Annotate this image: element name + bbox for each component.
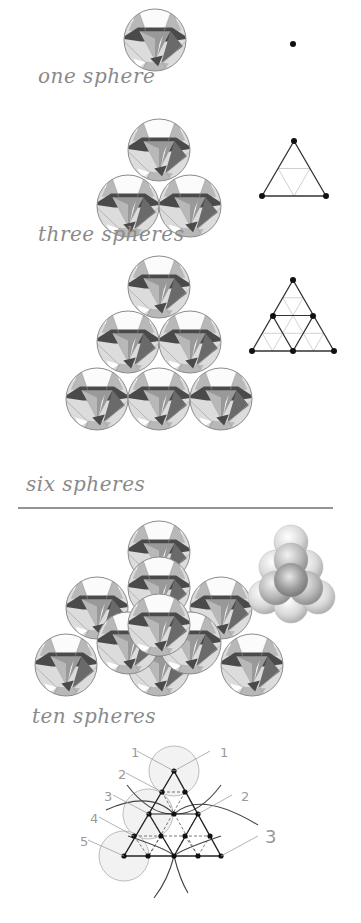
vertex-dot (249, 348, 255, 354)
vertex-dot (323, 193, 329, 199)
caption-six-spheres: six spheres (26, 472, 145, 496)
sphere-packing-figure: 11223453 one sphere three spheres six sp… (0, 0, 361, 923)
triangle-one (290, 41, 296, 47)
ball-pyramid (248, 525, 335, 623)
vertex-dot (207, 833, 212, 838)
vertex-dot (290, 41, 296, 47)
vertex-dot (291, 138, 297, 144)
triangle-three (259, 138, 329, 199)
step-number-label: 2 (118, 767, 126, 782)
step-number-label: 5 (80, 834, 88, 849)
caption-one-sphere: one sphere (38, 64, 155, 88)
vertex-dot (158, 833, 163, 838)
vertex-dot (270, 313, 276, 319)
triangular-number-diagrams (249, 41, 337, 354)
construction-diagram: 11223453 (80, 745, 276, 898)
sphere-group-three (94, 113, 224, 240)
vertex-dot (171, 853, 176, 858)
vertex-dot (145, 853, 150, 858)
figure-canvas: 11223453 (0, 0, 361, 923)
vertex-dot (182, 833, 187, 838)
faceted-sphere (125, 113, 193, 184)
shaded-ball (274, 563, 308, 597)
leader-line (221, 836, 258, 856)
step-number-label: 4 (90, 811, 98, 826)
vertex-dot (310, 313, 316, 319)
step-number-label: 1 (131, 745, 139, 760)
step-number-label: 3 (265, 826, 276, 847)
sphere-group-ten (32, 515, 286, 699)
triangle-six (249, 277, 337, 354)
caption-three-spheres: three spheres (38, 222, 184, 246)
vertex-dot (290, 348, 296, 354)
vertex-dot (195, 853, 200, 858)
step-number-label: 2 (241, 789, 249, 804)
vertex-dot (290, 277, 296, 283)
vertex-dot (171, 811, 176, 816)
vertex-dot (182, 789, 187, 794)
faceted-sphere (125, 250, 193, 321)
step-number-label: 1 (220, 745, 228, 760)
caption-ten-spheres: ten spheres (32, 704, 156, 728)
sphere-group-six (63, 250, 255, 433)
vertex-dot (259, 193, 265, 199)
step-number-label: 3 (104, 789, 112, 804)
vertex-dot (331, 348, 337, 354)
